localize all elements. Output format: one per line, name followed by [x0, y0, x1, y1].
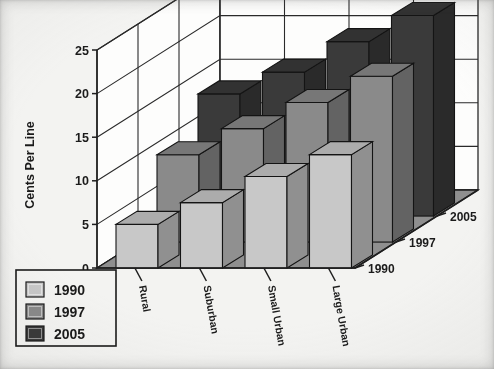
bar	[181, 190, 244, 268]
depth-axis-label: 1990	[368, 262, 395, 276]
category-tick-mark	[199, 268, 206, 281]
chart-figure: 0510152025Cents Per LineRuralSuburbanSma…	[0, 0, 494, 369]
legend-label: 1997	[54, 304, 85, 320]
depth-axis-label: 1997	[409, 236, 436, 250]
bar-front-face	[116, 224, 158, 268]
legend-label: 1990	[54, 282, 85, 298]
legend: 199019972005	[16, 270, 116, 346]
category-tick-mark	[135, 268, 142, 281]
category-label: Rural	[137, 284, 153, 313]
bar-side-face	[393, 63, 414, 242]
y-tick-label: 10	[75, 174, 89, 188]
bar-side-face	[223, 190, 244, 268]
category-tick-mark	[328, 268, 335, 281]
category-tick-mark	[264, 268, 271, 281]
category-label: Suburban	[201, 284, 221, 334]
bar-side-face	[352, 142, 373, 268]
category-label: Small Urban	[266, 284, 288, 346]
y-tick-label: 25	[75, 44, 89, 58]
depth-axis-label: 2005	[450, 210, 477, 224]
bar-side-face	[434, 2, 455, 216]
bar-front-face	[245, 176, 287, 268]
three-d-bar-chart: 0510152025Cents Per LineRuralSuburbanSma…	[0, 0, 494, 369]
bar-side-face	[287, 163, 308, 268]
category-label: Large Urban	[330, 284, 353, 347]
y-tick-label: 5	[82, 218, 89, 232]
bar	[116, 211, 179, 268]
bar	[310, 142, 373, 268]
y-tick-label: 20	[75, 87, 89, 101]
y-tick-label: 15	[75, 131, 89, 145]
bar	[245, 163, 308, 268]
y-axis-title: Cents Per Line	[23, 121, 37, 209]
bar-front-face	[310, 155, 352, 268]
legend-label: 2005	[54, 326, 85, 342]
bar-front-face	[181, 203, 223, 268]
